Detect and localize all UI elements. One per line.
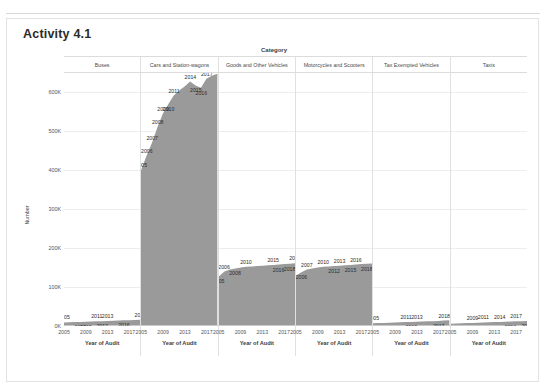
point-label-4: 2015 (267, 257, 279, 263)
point-label-6: 2016 (350, 257, 362, 263)
x-axis-cell-2: 2005200920132017Year of Audit (219, 326, 296, 356)
point-label-0: 2005 (64, 314, 70, 320)
x-ticks: 2005200920132017 (373, 329, 449, 338)
x-tick-3: 2017 (201, 329, 213, 335)
facet-header-3: Motorcycles and Scooters (296, 57, 373, 72)
point-label-3: 2008 (152, 119, 164, 125)
x-ticks: 2005200920132017 (141, 329, 217, 338)
point-label-7: 2019 (289, 255, 296, 261)
panel-2: 20052006200820102015201620182019 (219, 73, 296, 326)
facet-header-1: Cars and Station-wagons (141, 57, 218, 72)
x-tick-3: 2017 (433, 329, 445, 335)
point-label-1: 2006 (141, 148, 152, 154)
x-axis-cell-0: 2005200920132017Year of Audit (64, 326, 141, 356)
area-path-0 (64, 73, 140, 326)
x-tick-1: 2009 (157, 329, 169, 335)
point-label-10: 2017 (201, 73, 213, 77)
x-tick-0: 2005 (368, 329, 380, 335)
point-label-7: 2018 (361, 266, 373, 272)
y-tick-5: 500K (48, 128, 61, 134)
panel-4: 200520112012201320172018 (373, 73, 450, 326)
x-axis-cell-1: 2005200920132017Year of Audit (141, 326, 218, 356)
x-tick-1: 2009 (389, 329, 401, 335)
point-label-0: 2006 (296, 274, 307, 280)
x-axis-title: Year of Audit (451, 340, 527, 346)
point-label-7: 2014 (185, 74, 197, 80)
area-path-2 (219, 73, 295, 326)
point-label-0: 2005 (373, 315, 379, 321)
x-tick-2: 2013 (334, 329, 346, 335)
y-tick-2: 200K (48, 245, 61, 251)
area-path-4 (373, 73, 449, 326)
point-label-5: 2015 (345, 267, 357, 273)
facet-header-0: Buses (64, 57, 141, 72)
x-tick-2: 2013 (102, 329, 114, 335)
x-tick-2: 2013 (488, 329, 500, 335)
plot-area: Number 0K100K200K300K400K500K600K 200520… (21, 73, 527, 356)
point-label-1: 2011 (400, 314, 411, 320)
x-tick-3: 2017 (356, 329, 368, 335)
x-ticks: 2005200920132017 (451, 329, 527, 338)
facet-header-row: BusesCars and Station-wagonsGoods and Ot… (64, 56, 527, 73)
point-label-6: 2018 (284, 266, 296, 272)
facet-header-2: Goods and Other Vehicles (219, 57, 296, 72)
x-axis-title: Year of Audit (296, 340, 372, 346)
x-axis-row: 2005200920132017Year of Audit20052009201… (64, 326, 527, 356)
point-label-0: 2005 (219, 278, 225, 284)
point-label-0: 2005 (141, 162, 147, 168)
x-tick-2: 2013 (411, 329, 423, 335)
point-label-4: 2013 (334, 258, 346, 264)
x-axis-cell-5: 2005200920132017Year of Audit (451, 326, 527, 356)
x-axis-title: Year of Audit (373, 340, 449, 346)
facet-title: Category (21, 47, 527, 53)
x-tick-3: 2017 (124, 329, 136, 335)
x-tick-0: 2005 (213, 329, 225, 335)
x-tick-1: 2009 (80, 329, 92, 335)
y-tick-4: 400K (48, 167, 61, 173)
facet-header-5: Taxis (451, 57, 527, 72)
x-ticks: 2005200920132017 (64, 329, 140, 338)
panel-3: 20062007201020122013201520162018 (296, 73, 373, 326)
point-label-9: 2016 (196, 90, 208, 96)
x-ticks: 2005200920132017 (296, 329, 372, 338)
x-tick-2: 2013 (256, 329, 268, 335)
point-label-5: 2016 (273, 267, 285, 273)
x-tick-0: 2005 (445, 329, 457, 335)
panel-1: 2005200620072008200920102011201420152016… (141, 73, 218, 326)
point-label-1: 2009 (467, 315, 479, 321)
x-tick-1: 2009 (312, 329, 324, 335)
panel-5: 20072009201020112014201620172019 (451, 73, 527, 326)
x-tick-1: 2009 (467, 329, 479, 335)
facet-chart: Category BusesCars and Station-wagonsGoo… (21, 47, 527, 377)
page-top-divider (6, 13, 540, 14)
x-tick-3: 2017 (278, 329, 290, 335)
activity-card: Activity 4.1 Category BusesCars and Stat… (6, 18, 539, 382)
point-label-6: 2017 (510, 313, 522, 319)
x-tick-3: 2017 (510, 329, 522, 335)
point-label-5: 2013 (102, 313, 114, 319)
point-label-2: 2007 (146, 135, 158, 141)
point-label-3: 2010 (240, 259, 252, 265)
x-tick-0: 2005 (58, 329, 70, 335)
x-axis-title: Year of Audit (219, 340, 295, 346)
y-axis: 0K100K200K300K400K500K600K (31, 73, 64, 326)
point-label-6: 2011 (168, 88, 179, 94)
point-label-3: 2013 (411, 314, 423, 320)
panel-0: 20052008200920112012201320162019 (64, 73, 141, 326)
y-tick-6: 600K (48, 89, 61, 95)
x-tick-2: 2013 (179, 329, 191, 335)
y-axis-label: Number (24, 205, 30, 224)
area-path-3 (296, 73, 372, 326)
point-label-1: 2007 (301, 262, 313, 268)
point-label-1: 2006 (219, 264, 230, 270)
x-axis-title: Year of Audit (64, 340, 140, 346)
point-label-5: 2010 (163, 106, 175, 112)
facet-header-4: Tax Exempted Vehicles (373, 57, 450, 72)
x-axis-title: Year of Audit (141, 340, 217, 346)
x-tick-0: 2005 (290, 329, 302, 335)
point-label-2: 2008 (229, 270, 241, 276)
point-label-5: 2018 (438, 313, 450, 319)
point-label-3: 2012 (328, 268, 340, 274)
point-label-4: 2014 (494, 314, 506, 320)
area-path-1 (141, 73, 217, 326)
